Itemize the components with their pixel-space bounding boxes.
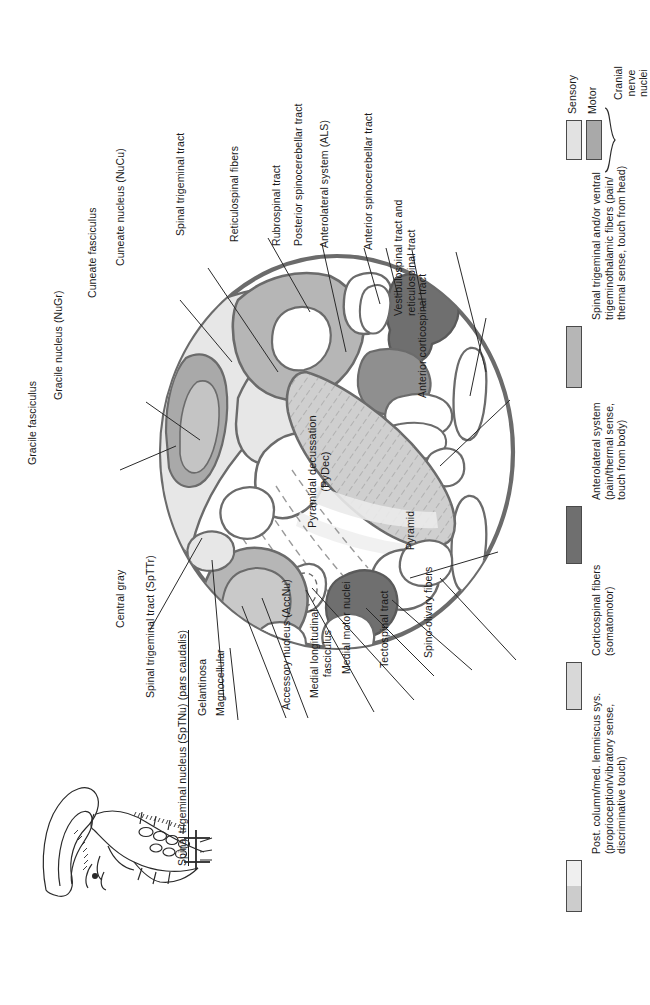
- legend-swatch-posterior-column: [566, 860, 582, 912]
- label-vestibulospinal-reticulospinal: Vestibulospinal tract and reticulospinal…: [392, 200, 417, 316]
- label-pyramidal-decussation: Pyramidal decussation (PyDec): [306, 415, 331, 528]
- legend-swatch-anterolateral-system: [566, 506, 582, 564]
- spinal-trigeminal-tract-sptr: [187, 532, 234, 571]
- label-accessory-nucleus: Accessory nucleus (AccNu): [280, 579, 293, 710]
- label-anterior-corticospinal-tract: Anterior corticospinal tract: [416, 274, 429, 398]
- label-cuneate-fasciculus: Cuneate fasciculus: [86, 207, 99, 298]
- legend-label-sensory: Sensory: [566, 75, 579, 114]
- brainstem-orientation-inset: [38, 768, 213, 903]
- spinal-trigeminal-nucleus-island: [272, 307, 331, 371]
- label-anterolateral-system: Anterolateral system (ALS): [318, 120, 331, 248]
- lateral-white-tract-lower: [452, 496, 487, 592]
- label-reticulospinal-fibers: Reticulospinal fibers: [228, 146, 241, 242]
- label-spinal-trigeminal-tract-top: Spinal trigeminal tract: [174, 133, 187, 236]
- legend-swatch-sensory: [566, 120, 582, 160]
- legend-label-anterolateral-system: Anterolateral system (pain/thermal sense…: [590, 402, 628, 500]
- label-gracile-fasciculus: Gracile fasciculus: [26, 381, 39, 465]
- legend-swatch-posterior-column-bottom: [567, 886, 581, 911]
- legend-label-posterior-column: Post. column/med. lemniscus sys. (propri…: [590, 693, 628, 854]
- label-tectospinal-tract: Tectospinal tract: [378, 590, 391, 668]
- label-spinal-trigeminal-tract-sptr: Spinal trigeminal tract (SpTTr): [144, 555, 157, 698]
- ventral-white-oval-a: [221, 487, 274, 539]
- legend-brace: [604, 106, 618, 174]
- label-pyramid: Pyramid: [404, 511, 417, 550]
- label-gracile-nucleus: Gracile nucleus (NuGr): [52, 290, 65, 400]
- label-spino-olivary-fibers: Spino-olivary fibers: [422, 567, 435, 658]
- inset-marker-dot: [92, 873, 98, 879]
- legend-label-spinal-trigeminal: Spinal trigeminal and/or ventral trigemi…: [590, 166, 628, 320]
- label-central-gray: Central gray: [114, 570, 127, 628]
- label-gelantinosa: Gelantinosa: [196, 659, 209, 716]
- legend-swatch-corticospinal: [566, 662, 582, 710]
- label-magnocellular: Magnocellular: [214, 649, 227, 716]
- label-posterior-spinocerebellar-tract: Posterior spinocerebellar tract: [292, 103, 305, 246]
- legend-swatch-spinal-trigeminal: [566, 326, 582, 388]
- label-cuneate-nucleus: Cuneate nucleus (NuCu): [114, 148, 127, 266]
- label-medial-motor-nuclei: Medial motor nuclei: [340, 581, 353, 674]
- section-body: [158, 256, 513, 668]
- legend-swatch-motor: [586, 120, 602, 160]
- legend-label-cranial-nerve-nuclei: Cranial nerve nuclei: [612, 66, 650, 100]
- legend-swatch-posterior-column-top: [567, 861, 581, 886]
- label-rubrospinal-tract: Rubrospinal tract: [270, 165, 283, 246]
- legend-label-corticospinal: Corticospinal fibers (somatomotor): [590, 565, 615, 656]
- label-anterior-spinocerebellar-tract: Anterior spinocerebellar tract: [362, 113, 375, 250]
- label-medial-longitudinal-fasciculus: Medial longitudinal fasciculus: [308, 609, 333, 698]
- legend-label-motor: Motor: [586, 87, 599, 114]
